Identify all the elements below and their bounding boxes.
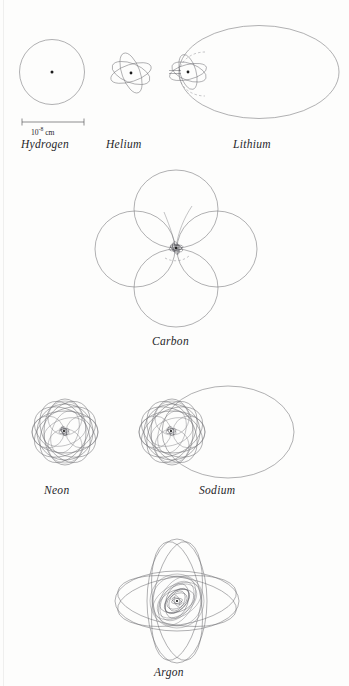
scale-unit: cm xyxy=(45,128,54,137)
atom-carbon-diagram xyxy=(95,170,257,327)
argon-nucleus-dot xyxy=(176,600,178,602)
atom-label-carbon: Carbon xyxy=(152,335,189,347)
hydrogen-nucleus-dot xyxy=(51,71,54,74)
atom-label-neon: Neon xyxy=(44,484,69,496)
sodium-nucleus-dot xyxy=(170,430,172,432)
atom-helium-diagram xyxy=(108,50,153,96)
scale-mantissa: 10 xyxy=(31,128,39,137)
atom-label-helium: Helium xyxy=(106,138,142,150)
carbon-nucleus-dot xyxy=(175,247,177,249)
atom-label-argon: Argon xyxy=(154,666,184,678)
atom-argon-diagram xyxy=(114,538,240,664)
lithium-outer-orbit xyxy=(179,26,339,119)
atom-label-sodium: Sodium xyxy=(199,484,235,496)
figure-page: 10-8 cm Hydrogen Helium Lithium Carbon N… xyxy=(0,0,349,686)
atom-label-lithium: Lithium xyxy=(233,138,271,150)
helium-nucleus-dot xyxy=(130,72,133,75)
atom-sodium-diagram xyxy=(132,386,294,478)
carbon-core-cluster xyxy=(169,241,184,255)
scale-bar-label: 10-8 cm xyxy=(31,126,54,137)
lithium-nucleus-dot xyxy=(187,71,190,74)
scale-exponent: -8 xyxy=(39,126,44,132)
atom-label-hydrogen: Hydrogen xyxy=(21,138,69,150)
atom-neon-diagram xyxy=(25,392,104,471)
atom-hydrogen-diagram xyxy=(20,40,85,105)
argon-core-cluster xyxy=(164,588,190,614)
scale-bar xyxy=(22,119,84,126)
atom-lithium-diagram xyxy=(168,26,339,119)
neon-nucleus-dot xyxy=(63,430,65,432)
